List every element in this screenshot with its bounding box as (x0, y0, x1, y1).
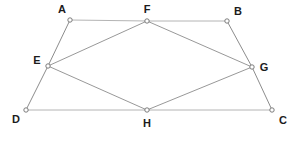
outer-quadrilateral-edges (26, 20, 272, 110)
vertex-markers (24, 18, 274, 112)
vertex-point-a (68, 18, 72, 22)
vertex-point-c (270, 108, 274, 112)
edge-g-c (252, 67, 272, 110)
edge-a-e (48, 20, 70, 66)
vertex-point-h (145, 108, 149, 112)
edge-h-e (48, 66, 147, 110)
geometry-canvas: A F B E G D H C (0, 0, 299, 141)
vertex-point-d (24, 108, 28, 112)
vertex-point-b (225, 19, 229, 23)
vertex-label-g: G (260, 61, 269, 73)
vertex-label-b: B (234, 5, 242, 17)
vertex-label-a: A (58, 3, 66, 15)
edge-f-g (147, 21, 252, 67)
vertex-label-f: F (144, 3, 151, 15)
edge-b-g (227, 21, 252, 67)
edge-e-f (48, 21, 147, 66)
vertex-point-e (46, 64, 50, 68)
vertex-point-f (145, 19, 149, 23)
edge-a-f (70, 20, 147, 21)
inner-quadrilateral-edges (48, 21, 252, 110)
vertex-point-g (250, 65, 254, 69)
edge-g-h (147, 67, 252, 110)
vertex-label-h: H (143, 117, 151, 129)
geometry-diagram: A F B E G D H C (0, 0, 299, 141)
edge-e-d (26, 66, 48, 110)
vertex-label-d: D (12, 113, 20, 125)
vertex-label-c: C (279, 114, 287, 126)
vertex-label-e: E (33, 54, 40, 66)
